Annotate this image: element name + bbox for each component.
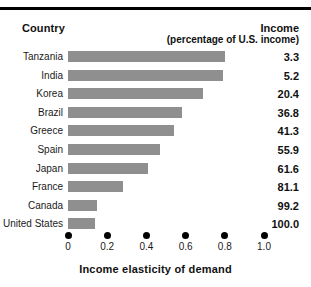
- income-value: 55.9: [278, 141, 299, 160]
- axis-tick-label: 0.8: [209, 241, 241, 252]
- income-value: 5.2: [284, 67, 299, 86]
- bar: [68, 51, 225, 62]
- x-axis-title: Income elasticity of demand: [0, 263, 311, 275]
- header-country-label: Country: [22, 22, 65, 34]
- bar: [68, 107, 182, 118]
- chart-row: Brazil36.8: [0, 104, 311, 123]
- income-value: 3.3: [284, 48, 299, 67]
- bar-track: [68, 141, 264, 160]
- bar-track: [68, 104, 264, 123]
- axis-tick-label: 0.2: [91, 241, 123, 252]
- country-label: Japan: [0, 160, 63, 179]
- axis-tick-dot-icon: [65, 232, 72, 239]
- axis-tick-dot-icon: [261, 232, 268, 239]
- header-income-label: Income: [260, 22, 299, 34]
- country-label: India: [0, 67, 63, 86]
- axis-tick-dot-icon: [182, 232, 189, 239]
- chart-row: Japan61.6: [0, 160, 311, 179]
- country-label: Greece: [0, 122, 63, 141]
- chart-row: Canada99.2: [0, 197, 311, 216]
- figure-container: Country Income (percentage of U.S. incom…: [0, 0, 311, 287]
- bar: [68, 125, 174, 136]
- chart-row: Spain55.9: [0, 141, 311, 160]
- table-header: Country Income (percentage of U.S. incom…: [0, 22, 311, 48]
- bar: [68, 218, 95, 229]
- bar-track: [68, 122, 264, 141]
- country-label: Canada: [0, 197, 63, 216]
- chart-row: Tanzania3.3: [0, 48, 311, 67]
- country-label: France: [0, 178, 63, 197]
- axis-tick-label: 0: [52, 241, 84, 252]
- top-rule-divider: [0, 7, 311, 10]
- bar: [68, 144, 160, 155]
- bar: [68, 88, 203, 99]
- bar: [68, 181, 123, 192]
- bar-track: [68, 48, 264, 67]
- bar: [68, 70, 223, 81]
- chart-row: Korea20.4: [0, 85, 311, 104]
- bar: [68, 200, 97, 211]
- chart-row: France81.1: [0, 178, 311, 197]
- x-axis: 00.20.40.60.81.0: [0, 232, 311, 262]
- income-value: 41.3: [278, 122, 299, 141]
- axis-tick-dot-icon: [104, 232, 111, 239]
- axis-tick-label: 1.0: [248, 241, 280, 252]
- country-label: Brazil: [0, 104, 63, 123]
- axis-tick-label: 0.6: [170, 241, 202, 252]
- axis-tick-dot-icon: [143, 232, 150, 239]
- income-value: 81.1: [278, 178, 299, 197]
- bar-track: [68, 178, 264, 197]
- bar-track: [68, 85, 264, 104]
- bar-track: [68, 197, 264, 216]
- axis-tick-dot-icon: [221, 232, 228, 239]
- bar-track: [68, 160, 264, 179]
- country-label: Tanzania: [0, 48, 63, 67]
- country-label: Spain: [0, 141, 63, 160]
- income-value: 99.2: [278, 197, 299, 216]
- header-income-sublabel: (percentage of U.S. income): [167, 34, 299, 45]
- income-value: 36.8: [278, 104, 299, 123]
- income-value: 20.4: [278, 85, 299, 104]
- chart-row: Greece41.3: [0, 122, 311, 141]
- country-label: Korea: [0, 85, 63, 104]
- axis-tick-label: 0.4: [130, 241, 162, 252]
- bar-chart-plot-area: Tanzania3.3India5.2Korea20.4Brazil36.8Gr…: [0, 48, 311, 233]
- income-value: 61.6: [278, 160, 299, 179]
- chart-row: India5.2: [0, 67, 311, 86]
- bar-track: [68, 67, 264, 86]
- bar: [68, 163, 148, 174]
